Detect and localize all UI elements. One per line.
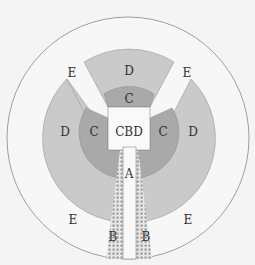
label-e-top-right: E: [183, 66, 192, 80]
label-e-top-left: E: [68, 66, 77, 80]
urban-model-diagram: E E E E D D D C C C CBD A B B: [0, 0, 255, 265]
label-c-top: C: [124, 92, 133, 106]
label-d-left: D: [60, 125, 70, 139]
label-c-left: C: [89, 125, 98, 139]
label-d-top: D: [124, 64, 134, 78]
zone-a-strip: [123, 147, 136, 259]
label-a: A: [124, 167, 134, 181]
label-b-right: B: [142, 230, 151, 244]
label-e-bottom-right: E: [184, 213, 193, 227]
label-b-left: B: [109, 230, 118, 244]
label-e-bottom-left: E: [69, 213, 78, 227]
label-cbd: CBD: [115, 125, 143, 139]
label-d-right: D: [188, 125, 198, 139]
diagram-container: E E E E D D D C C C CBD A B B: [0, 0, 255, 265]
label-c-right: C: [158, 125, 167, 139]
